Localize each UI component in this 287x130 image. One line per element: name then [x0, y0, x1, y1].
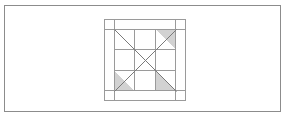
diagonals-group [115, 30, 177, 92]
triangle-bottom-left [114, 70, 135, 91]
figure-root [0, 0, 287, 130]
quilt-block-canvas [0, 0, 287, 130]
triangle-top-right [155, 29, 176, 50]
